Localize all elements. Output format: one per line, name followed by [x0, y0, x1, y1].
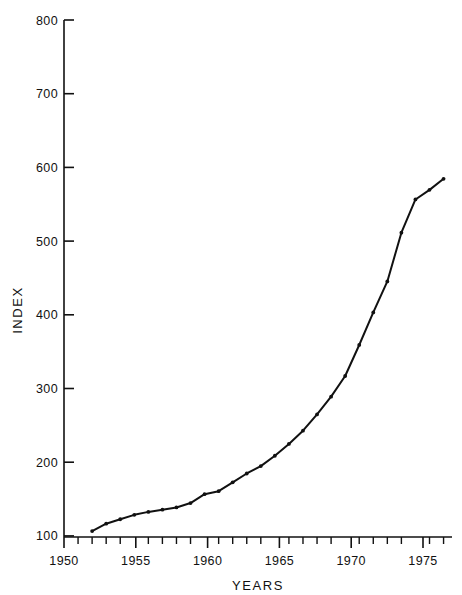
data-point-marker: [273, 454, 277, 458]
data-point-marker: [189, 501, 193, 505]
data-point-marker: [301, 429, 305, 433]
data-point-marker: [428, 188, 432, 192]
y-tick-label: 700: [36, 87, 58, 101]
chart-background: [0, 0, 462, 595]
x-tick-label: 1950: [49, 554, 78, 568]
x-tick-label: 1970: [336, 554, 365, 568]
data-point-marker: [245, 472, 249, 476]
y-tick-label: 100: [36, 529, 58, 543]
x-axis-title: YEARS: [232, 578, 284, 593]
y-tick-label: 800: [36, 14, 58, 28]
y-tick-label: 600: [36, 161, 58, 175]
x-tick-label: 1955: [121, 554, 150, 568]
data-point-marker: [203, 492, 207, 496]
data-point-marker: [315, 413, 319, 417]
data-point-marker: [385, 280, 389, 284]
y-axis-title: INDEX: [10, 286, 25, 334]
data-point-marker: [399, 231, 403, 235]
data-point-marker: [90, 529, 94, 533]
data-point-marker: [161, 508, 165, 512]
y-tick-label: 500: [36, 235, 58, 249]
data-point-marker: [329, 395, 333, 399]
x-tick-label: 1960: [193, 554, 222, 568]
line-chart-svg: 800 700 600 500 400 300: [0, 0, 462, 595]
data-point-marker: [357, 343, 361, 347]
data-point-marker: [104, 522, 108, 526]
data-point-marker: [287, 442, 291, 446]
data-point-marker: [343, 374, 347, 378]
y-tick-label: 400: [36, 308, 58, 322]
data-point-marker: [231, 480, 235, 484]
data-point-marker: [132, 513, 136, 517]
data-point-marker: [371, 311, 375, 315]
x-tick-label: 1965: [265, 554, 294, 568]
data-point-marker: [414, 198, 418, 202]
data-point-marker: [217, 489, 221, 493]
data-point-marker: [118, 517, 122, 521]
data-point-marker: [146, 510, 150, 514]
data-point-marker: [175, 506, 179, 510]
data-point-marker: [442, 177, 446, 181]
chart-figure: 800 700 600 500 400 300: [0, 0, 462, 595]
data-point-marker: [259, 464, 263, 468]
x-tick-label: 1975: [408, 554, 437, 568]
y-tick-label: 300: [36, 382, 58, 396]
y-tick-label: 200: [36, 456, 58, 470]
